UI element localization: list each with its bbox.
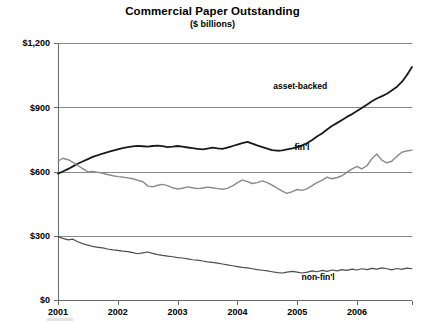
series-line-fin-l	[58, 150, 412, 193]
x-axis-label-2005: 2005	[287, 307, 307, 317]
series-label-asset-backed: asset-backed	[273, 81, 327, 91]
x-axis-label-2004: 2004	[227, 307, 247, 317]
y-axis-label-600: $600	[30, 167, 50, 177]
y-axis-label-0: $0	[40, 295, 50, 305]
series-label-non-fin-l: non-fin'l	[302, 272, 335, 282]
y-axis-label-300: $300	[30, 231, 50, 241]
series-annotations-group: asset-backedfin'lnon-fin'l	[273, 81, 334, 282]
chart-figure: Commercial Paper Outstanding ($ billions…	[0, 0, 425, 322]
xtick-labels-group: 200120022003200420052006	[48, 307, 367, 317]
series-line-non-fin-l	[58, 237, 412, 273]
x-axis-label-2003: 2003	[168, 307, 188, 317]
gridlines-group	[58, 44, 412, 301]
chart-plot-area: $0$300$600$900$1,200 2001200220032004200…	[0, 0, 425, 322]
page-edge-artifact	[47, 318, 73, 321]
series-line-asset-backed	[58, 67, 412, 174]
series-group	[58, 67, 412, 273]
series-label-fin-l: fin'l	[295, 142, 310, 152]
x-axis-label-2001: 2001	[48, 307, 68, 317]
ytick-labels-group: $0$300$600$900$1,200	[22, 38, 50, 305]
x-axis-label-2006: 2006	[347, 307, 367, 317]
y-axis-label-1200: $1,200	[22, 38, 50, 48]
y-axis-label-900: $900	[30, 103, 50, 113]
x-axis-label-2002: 2002	[108, 307, 128, 317]
